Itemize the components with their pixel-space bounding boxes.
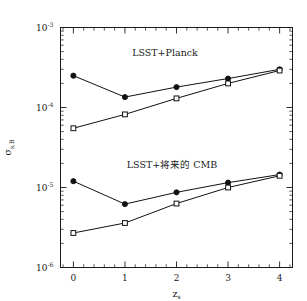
- plot-canvas: 01234 10-310-410-510-6 LSST+PlanckLSST+将…: [0, 0, 307, 301]
- x-tick-labels: 01234: [71, 273, 283, 283]
- y-axis-title: σs,B: [2, 139, 15, 156]
- y-tick-labels: 10-310-410-510-6: [36, 21, 54, 273]
- data-point-marker: [174, 96, 179, 101]
- y-tick-label: 10-3: [36, 21, 54, 33]
- data-point-marker: [226, 185, 231, 190]
- annotation-lsst-future-cmb: LSST+将来的 CMB: [127, 159, 217, 170]
- axis-ticks: [61, 28, 293, 268]
- y-tick-label: 10-6: [36, 261, 54, 273]
- data-point-marker: [71, 126, 76, 131]
- data-point-marker: [71, 231, 76, 236]
- axes-frame: [61, 28, 293, 268]
- data-point-marker: [277, 68, 282, 73]
- plot-annotations: LSST+PlanckLSST+将来的 CMB: [127, 47, 217, 170]
- x-tick-label: 0: [71, 273, 77, 283]
- data-point-marker: [174, 84, 179, 89]
- x-tick-label: 1: [122, 273, 128, 283]
- figure-container: 01234 10-310-410-510-6 LSST+PlanckLSST+将…: [0, 0, 307, 301]
- data-point-marker: [174, 201, 179, 206]
- x-tick-label: 4: [277, 273, 283, 283]
- y-tick-label: 10-5: [36, 181, 54, 193]
- data-point-marker: [71, 179, 76, 184]
- data-point-marker: [71, 73, 76, 78]
- y-tick-label: 10-4: [36, 101, 54, 113]
- data-series: [71, 67, 282, 236]
- data-point-marker: [123, 112, 128, 117]
- data-point-marker: [174, 190, 179, 195]
- x-axis-title: zs: [172, 288, 180, 301]
- data-point-marker: [122, 94, 127, 99]
- annotation-lsst-planck: LSST+Planck: [132, 47, 198, 58]
- data-point-marker: [277, 173, 282, 178]
- x-tick-label: 2: [174, 273, 180, 283]
- plot-frame: [61, 28, 293, 268]
- series-line: [73, 69, 279, 97]
- data-point-marker: [123, 221, 128, 226]
- x-tick-label: 3: [225, 273, 231, 283]
- data-point-marker: [225, 180, 230, 185]
- data-point-marker: [122, 202, 127, 207]
- data-point-marker: [226, 81, 231, 86]
- data-point-marker: [225, 76, 230, 81]
